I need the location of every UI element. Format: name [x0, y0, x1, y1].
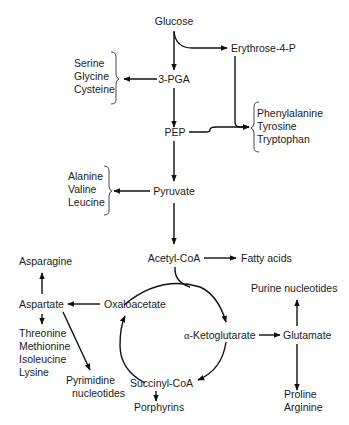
brace-serine-family — [111, 52, 119, 104]
node-erythrose4p: Erythrose-4-P — [231, 42, 296, 54]
brace-pyruvate-family — [104, 166, 112, 215]
node-succinylcoa: Succinyl-CoA — [130, 377, 193, 389]
pyrimidine-line-1: Pyrimidine — [66, 374, 115, 386]
node-3pga: 3-PGA — [158, 73, 190, 85]
arginine-label: Arginine — [284, 401, 323, 413]
edge-pep-to-aromatic — [189, 127, 249, 132]
node-glucose: Glucose — [155, 15, 194, 27]
edge-erythrose4p-to-aromatic — [235, 56, 249, 127]
pyrimidine-line-2: nucleotides — [72, 387, 125, 399]
node-purine-nucleotides: Purine nucleotides — [251, 282, 337, 294]
group-item: Tyrosine — [257, 120, 297, 132]
edge-succinylcoa-to-oxaloacetate — [120, 316, 145, 383]
node-oxaloacetate: Oxaloacetate — [104, 298, 166, 310]
nodes: Glucose Erythrose-4-P 3-PGA PEP Pyruvate… — [19, 15, 337, 413]
group-item: Phenylalanine — [257, 107, 323, 119]
node-pyruvate: Pyruvate — [153, 185, 195, 197]
edge-glucose-to-erythrose4p — [174, 32, 227, 48]
proline-label: Proline — [284, 388, 317, 400]
node-porphyrins: Porphyrins — [134, 401, 184, 413]
group-aspartate-family: Threonine Methionine Isoleucine Lysine — [19, 327, 71, 378]
group-item: Tryptophan — [257, 133, 310, 145]
node-aspartate: Aspartate — [19, 298, 64, 310]
node-proline-arginine: Proline Arginine — [284, 388, 323, 413]
group-serine-family: Serine Glycine Cysteine — [74, 57, 115, 95]
group-item: Alanine — [68, 170, 103, 182]
metabolic-pathway-diagram: Glucose Erythrose-4-P 3-PGA PEP Pyruvate… — [0, 0, 349, 425]
node-pyrimidine-nucleotides: Pyrimidine nucleotides — [66, 374, 125, 399]
node-fattyacids: Fatty acids — [241, 252, 292, 264]
group-item: Cysteine — [74, 83, 115, 95]
node-pep: PEP — [164, 126, 185, 138]
group-item: Methionine — [19, 340, 71, 352]
group-item: Leucine — [68, 196, 105, 208]
group-item: Isoleucine — [19, 353, 66, 365]
node-glutamate: Glutamate — [283, 329, 332, 341]
node-akg: α-Ketoglutarate — [184, 329, 256, 341]
akg-label: -Ketoglutarate — [190, 329, 256, 341]
edge-akg-to-succinylcoa — [198, 342, 226, 380]
group-item: Lysine — [19, 366, 49, 378]
group-item: Glycine — [74, 70, 109, 82]
group-item: Threonine — [19, 327, 66, 339]
group-item: Serine — [74, 57, 105, 69]
node-asparagine: Asparagine — [19, 255, 72, 267]
node-acetylcoa: Acetyl-CoA — [148, 252, 201, 264]
group-aromatic-family: Phenylalanine Tyrosine Tryptophan — [257, 107, 323, 145]
group-pyruvate-family: Alanine Valine Leucine — [68, 170, 105, 208]
group-item: Valine — [68, 183, 97, 195]
